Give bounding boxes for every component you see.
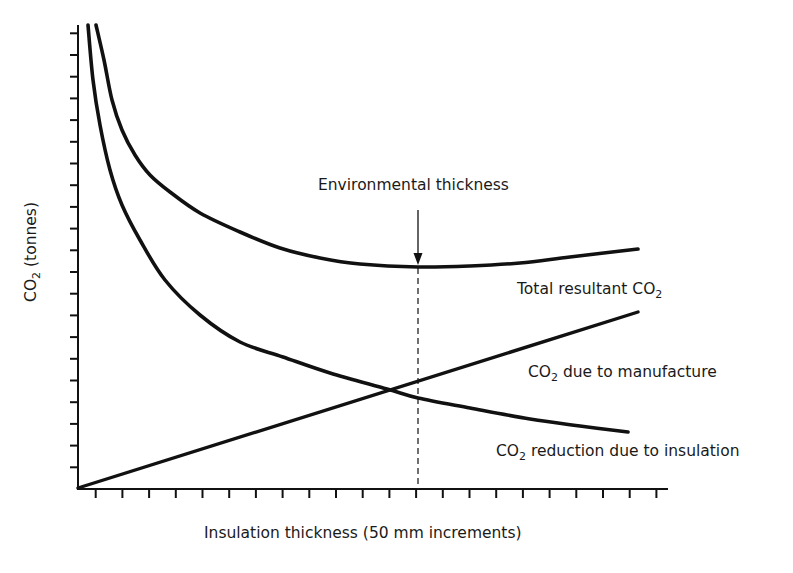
x-axis-ticks (96, 489, 657, 498)
label-total-text: Total resultant CO (517, 280, 655, 298)
label-manufacture-subscript: 2 (551, 371, 558, 384)
label-reduction-text: reduction due to insulation (526, 442, 739, 460)
label-manufacture-co: CO (528, 363, 551, 381)
y-axis-ticks (70, 33, 78, 467)
label-total-subscript: 2 (655, 288, 662, 301)
series-total-resultant-co2 (96, 25, 638, 267)
label-total-resultant-co2: Total resultant CO2 (517, 280, 662, 301)
label-co2-due-to-manufacture: CO2 due to manufacture (528, 363, 717, 384)
y-label-co: CO (22, 279, 40, 302)
label-reduction-co: CO (496, 442, 519, 460)
y-label-subscript: 2 (30, 272, 43, 279)
label-reduction-subscript: 2 (519, 450, 526, 463)
y-axis-label: CO2 (tonnes) (22, 202, 43, 302)
arrow-down-icon (414, 210, 423, 265)
y-label-text: (tonnes) (22, 202, 40, 272)
label-co2-reduction-due-to-insulation: CO2 reduction due to insulation (496, 442, 739, 463)
chart-canvas (0, 0, 793, 573)
x-axis-label: Insulation thickness (50 mm increments) (204, 524, 522, 542)
annotation-environmental-thickness: Environmental thickness (318, 176, 509, 194)
label-manufacture-text: due to manufacture (558, 363, 717, 381)
